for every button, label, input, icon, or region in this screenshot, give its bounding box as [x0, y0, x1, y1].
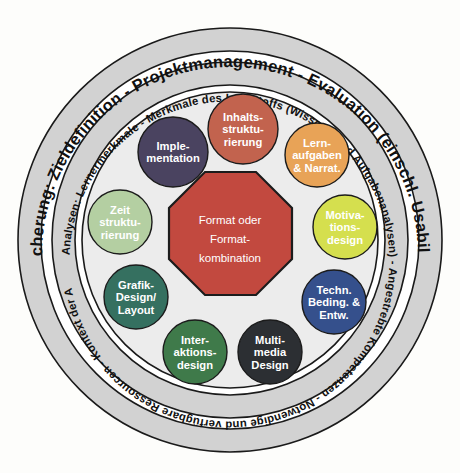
node-label-interaktionsdesign-line-2: aktions-	[174, 346, 217, 358]
node-label-grafik-design-layout-line-2: Design/	[116, 291, 156, 303]
node-label-interaktionsdesign-line-1: Inter-	[181, 334, 209, 346]
node-label-implementation-line-2: mentation	[146, 152, 200, 164]
node-label-zeitstrukturierung-line-2: struktu-	[99, 216, 141, 228]
node-label-multimedia-design-line-1: Multi-	[255, 334, 285, 346]
node-label-motivationsdesign-line-2: tions-	[330, 221, 361, 233]
node-label-motivationsdesign-line-1: Motiva-	[325, 209, 364, 221]
node-label-multimedia-design-line-3: Design	[251, 359, 288, 371]
node-multimedia-design[interactable]: Multi-mediaDesign	[238, 320, 302, 384]
node-label-techn-beding-entw-line-2: Beding. &	[308, 296, 360, 308]
node-lernaufgaben-narrat[interactable]: Lern-aufgaben& Narrat.	[285, 123, 349, 187]
node-label-lernaufgaben-narrat-line-1: Lern-	[303, 137, 331, 149]
node-label-motivationsdesign-line-3: design	[327, 234, 363, 246]
node-label-inhaltsstrukturierung-line-1: Inhalts-	[223, 111, 263, 123]
node-label-inhaltsstrukturierung-line-3: rierung	[224, 136, 263, 148]
node-interaktionsdesign[interactable]: Inter-aktions-design	[163, 320, 227, 384]
node-label-interaktionsdesign-line-3: design	[177, 359, 213, 371]
node-label-implementation-line-1: Imple-	[157, 140, 190, 152]
node-label-zeitstrukturierung-line-1: Zeit	[110, 204, 130, 216]
node-label-techn-beding-entw-line-3: Entw.	[319, 309, 348, 321]
node-label-lernaufgaben-narrat-line-3: & Narrat.	[293, 162, 340, 174]
node-label-inhaltsstrukturierung-line-2: struktu-	[222, 123, 264, 135]
node-motivationsdesign[interactable]: Motiva-tions-design	[313, 195, 377, 259]
format-octagon-line-2: Format-	[210, 233, 250, 245]
node-label-lernaufgaben-narrat-line-2: aufgaben	[292, 149, 342, 161]
node-zeitstrukturierung[interactable]: Zeitstruktu-rierung	[88, 190, 152, 254]
node-inhaltsstrukturierung[interactable]: Inhalts-struktu-rierung	[208, 94, 278, 164]
node-grafik-design-layout[interactable]: Grafik-Design/Layout	[104, 265, 168, 329]
node-label-zeitstrukturierung-line-3: rierung	[101, 229, 140, 241]
node-implementation[interactable]: Imple-mentation	[138, 117, 208, 187]
format-octagon[interactable]: Format oder Format- kombination	[169, 172, 292, 295]
concentric-wheel-diagram: Qualitätssicherung: Zieldefinition - Pro…	[0, 0, 460, 473]
node-techn-beding-entw[interactable]: Techn.Beding. &Entw.	[302, 270, 366, 334]
node-label-grafik-design-layout-line-1: Grafik-	[118, 279, 154, 291]
node-label-grafik-design-layout-line-3: Layout	[118, 304, 155, 316]
diagram-canvas: Qualitätssicherung: Zieldefinition - Pro…	[0, 0, 460, 473]
node-label-multimedia-design-line-2: media	[254, 346, 287, 358]
node-label-techn-beding-entw-line-1: Techn.	[316, 284, 351, 296]
format-octagon-line-3: kombination	[199, 252, 261, 264]
format-octagon-line-1: Format oder	[199, 214, 262, 226]
